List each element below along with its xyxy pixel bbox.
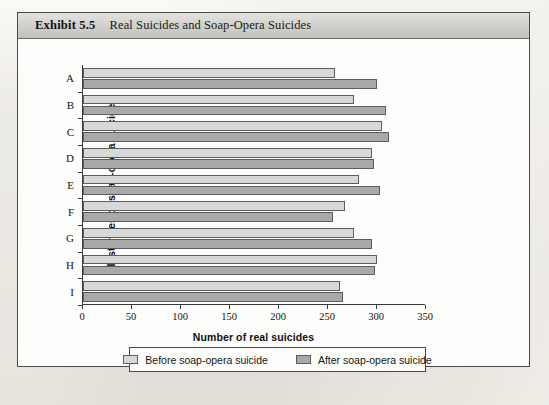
y-axis-label-H: H xyxy=(66,259,74,271)
y-axis-tick xyxy=(78,278,82,279)
bar-G-before xyxy=(83,228,354,238)
bar-group xyxy=(83,95,426,116)
exhibit-frame: Exhibit 5.5 Real Suicides and Soap-Opera… xyxy=(17,12,530,367)
x-axis-tick-label: 150 xyxy=(221,311,237,322)
bar-group xyxy=(83,281,426,302)
x-axis-tick-label: 300 xyxy=(368,311,384,322)
x-axis-tick xyxy=(180,305,181,309)
y-axis-label-A: A xyxy=(66,72,74,84)
legend-item-after: After soap-opera suicide xyxy=(296,354,432,366)
bar-group xyxy=(83,228,426,249)
bar-E-before xyxy=(83,175,359,185)
x-axis-tick-label: 200 xyxy=(270,311,286,322)
legend-swatch-before xyxy=(123,355,138,364)
y-axis-label-B: B xyxy=(67,99,74,111)
legend-swatch-after xyxy=(296,355,311,364)
bar-B-after xyxy=(83,106,386,116)
y-axis-tick xyxy=(78,145,82,146)
bar-C-after xyxy=(83,132,389,142)
x-axis-title: Number of real suicides xyxy=(82,331,425,343)
bar-A-after xyxy=(83,79,377,89)
bar-I-before xyxy=(83,281,340,291)
x-axis-tick xyxy=(131,305,132,309)
y-axis-label-C: C xyxy=(67,126,74,138)
bar-G-after xyxy=(83,239,372,249)
x-axis-tick xyxy=(376,305,377,309)
y-axis-tick xyxy=(78,118,82,119)
bar-H-after xyxy=(83,266,375,276)
bar-I-after xyxy=(83,292,343,302)
bar-group xyxy=(83,175,426,196)
y-axis-label-G: G xyxy=(66,232,74,244)
bar-A-before xyxy=(83,68,335,78)
exhibit-header: Exhibit 5.5 Real Suicides and Soap-Opera… xyxy=(18,13,529,39)
y-axis-tick xyxy=(78,172,82,173)
x-axis-tick xyxy=(278,305,279,309)
x-axis-tick xyxy=(327,305,328,309)
y-axis-tick xyxy=(78,225,82,226)
legend-label-after: After soap-opera suicide xyxy=(318,354,432,366)
chart-legend: Before soap-opera suicide After soap-ope… xyxy=(129,347,426,372)
y-axis-label-F: F xyxy=(68,206,74,218)
bar-D-after xyxy=(83,159,374,169)
chart-area: Instances of soap-opera suicide ABCDEFGH… xyxy=(18,39,529,368)
plot-area: Instances of soap-opera suicide ABCDEFGH… xyxy=(82,65,425,305)
exhibit-title: Real Suicides and Soap-Opera Suicides xyxy=(110,18,312,33)
bar-C-before xyxy=(83,121,382,131)
bar-E-after xyxy=(83,186,380,196)
bar-group xyxy=(83,121,426,142)
x-axis-tick xyxy=(425,305,426,309)
bar-D-before xyxy=(83,148,372,158)
bar-group xyxy=(83,201,426,222)
bar-H-before xyxy=(83,255,377,265)
x-axis-tick xyxy=(82,305,83,309)
bar-F-after xyxy=(83,212,333,222)
y-axis-tick xyxy=(78,252,82,253)
bar-B-before xyxy=(83,95,354,105)
exhibit-number: Exhibit 5.5 xyxy=(35,18,96,33)
x-axis-tick-label: 0 xyxy=(79,311,84,322)
x-axis-line xyxy=(82,304,425,305)
y-axis-tick xyxy=(78,198,82,199)
y-axis-label-D: D xyxy=(66,152,74,164)
bar-group xyxy=(83,68,426,89)
x-axis-tick-label: 250 xyxy=(319,311,335,322)
bar-F-before xyxy=(83,201,345,211)
y-axis-label-E: E xyxy=(67,179,74,191)
x-axis-tick-label: 350 xyxy=(417,311,433,322)
x-axis-tick-label: 100 xyxy=(172,311,188,322)
y-axis-tick xyxy=(78,92,82,93)
legend-item-before: Before soap-opera suicide xyxy=(123,354,268,366)
bar-group xyxy=(83,255,426,276)
y-axis-label-I: I xyxy=(70,286,74,298)
legend-label-before: Before soap-opera suicide xyxy=(145,354,268,366)
x-axis-tick xyxy=(229,305,230,309)
bar-group xyxy=(83,148,426,169)
x-axis-tick-label: 50 xyxy=(126,311,137,322)
